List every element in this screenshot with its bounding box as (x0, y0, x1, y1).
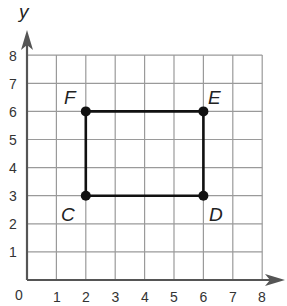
y-tick-6: 6 (9, 104, 17, 120)
y-tick-8: 8 (9, 48, 17, 64)
y-tick-3: 3 (9, 188, 17, 204)
x-tick-1: 1 (53, 289, 61, 305)
x-tick-6: 6 (200, 289, 208, 305)
label-f: F (64, 87, 77, 108)
x-tick-4: 4 (141, 289, 149, 305)
x-tick-3: 3 (112, 289, 120, 305)
y-tick-7: 7 (9, 76, 17, 92)
point-f (81, 106, 91, 116)
y-tick-4: 4 (9, 160, 17, 176)
y-tick-5: 5 (9, 132, 17, 148)
x-tick-5: 5 (170, 289, 178, 305)
point-c (81, 191, 91, 201)
point-e (198, 106, 208, 116)
y-tick-labels: 1 2 3 4 5 6 7 8 (9, 48, 17, 260)
label-c: C (61, 204, 75, 225)
label-e: E (208, 87, 221, 108)
x-tick-7: 7 (229, 289, 237, 305)
point-d (198, 191, 208, 201)
y-tick-1: 1 (9, 244, 17, 260)
origin-label: 0 (15, 287, 23, 303)
x-tick-2: 2 (82, 289, 90, 305)
axes (21, 30, 285, 286)
grid-lines (27, 55, 262, 280)
y-tick-2: 2 (9, 216, 17, 232)
coordinate-plane: F E C D y 1 2 3 4 5 6 7 8 0 1 2 3 4 5 6 … (0, 0, 287, 306)
y-axis-label: y (17, 1, 30, 22)
label-d: D (209, 204, 223, 225)
x-tick-8: 8 (258, 289, 266, 305)
x-tick-labels: 0 1 2 3 4 5 6 7 8 (15, 287, 266, 305)
